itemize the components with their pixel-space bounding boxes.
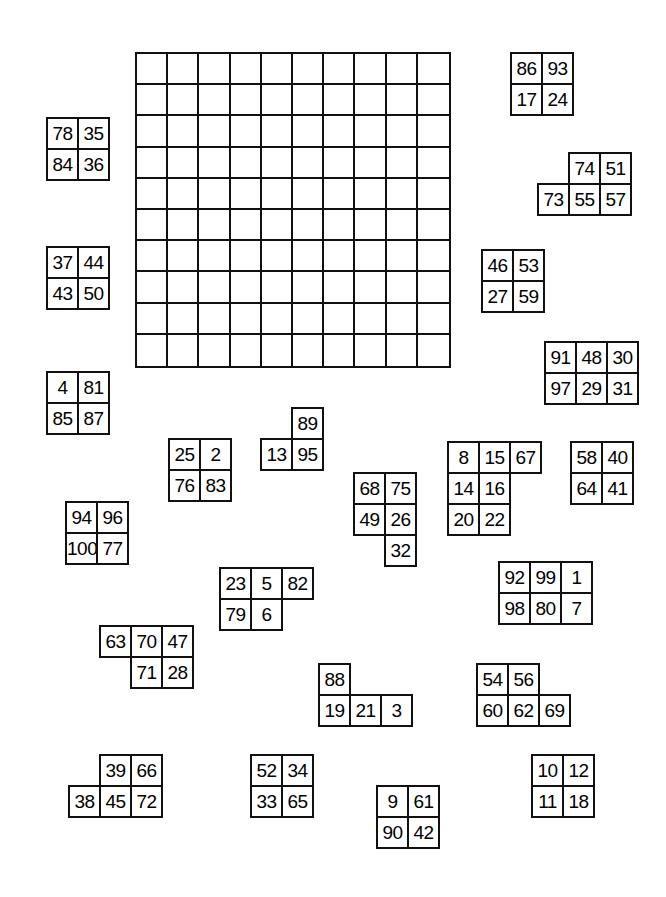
board-cell[interactable] (168, 85, 199, 116)
board-cell[interactable] (199, 179, 230, 210)
piece-cell[interactable]: 34 (281, 754, 314, 787)
piece-cell[interactable]: 30 (606, 341, 639, 374)
piece-cell[interactable]: 100 (65, 532, 98, 565)
board-cell[interactable] (168, 272, 199, 303)
piece-cell[interactable]: 45 (99, 785, 132, 818)
board-cell[interactable] (168, 54, 199, 85)
board-cell[interactable] (293, 335, 324, 366)
puzzle-piece[interactable]: 37444350 (46, 246, 108, 308)
puzzle-piece[interactable]: 8819213 (318, 663, 411, 725)
piece-cell[interactable]: 51 (599, 152, 632, 185)
board-cell[interactable] (231, 210, 262, 241)
board-cell[interactable] (262, 241, 293, 272)
board-cell[interactable] (387, 179, 418, 210)
board-cell[interactable] (199, 272, 230, 303)
piece-cell[interactable]: 49 (353, 503, 386, 536)
board-cell[interactable] (355, 210, 386, 241)
board-cell[interactable] (293, 241, 324, 272)
piece-cell[interactable]: 56 (507, 663, 540, 696)
puzzle-piece[interactable]: 914830972931 (544, 341, 637, 403)
piece-cell[interactable]: 24 (541, 83, 574, 116)
board-cell[interactable] (137, 210, 168, 241)
board-cell[interactable] (355, 272, 386, 303)
board-cell[interactable] (137, 54, 168, 85)
piece-cell[interactable]: 41 (601, 472, 634, 505)
board-cell[interactable] (418, 116, 449, 147)
piece-cell[interactable]: 18 (562, 785, 595, 818)
board-cell[interactable] (262, 304, 293, 335)
piece-cell[interactable]: 35 (77, 117, 110, 150)
board-cell[interactable] (137, 179, 168, 210)
piece-cell[interactable]: 69 (538, 694, 571, 727)
board-cell[interactable] (387, 241, 418, 272)
board-cell[interactable] (293, 148, 324, 179)
piece-cell[interactable]: 97 (544, 372, 577, 405)
piece-cell[interactable]: 40 (601, 441, 634, 474)
board-cell[interactable] (199, 210, 230, 241)
piece-cell[interactable]: 21 (349, 694, 382, 727)
board-cell[interactable] (262, 116, 293, 147)
puzzle-piece[interactable]: 10121118 (531, 754, 593, 816)
piece-cell[interactable]: 27 (481, 280, 514, 313)
piece-cell[interactable]: 12 (562, 754, 595, 787)
board-cell[interactable] (231, 85, 262, 116)
piece-cell[interactable]: 74 (568, 152, 601, 185)
board-cell[interactable] (324, 210, 355, 241)
piece-cell[interactable]: 15 (478, 441, 511, 474)
puzzle-piece[interactable]: 9299198807 (498, 561, 591, 623)
puzzle-piece[interactable]: 9619042 (376, 785, 438, 847)
board-cell[interactable] (168, 210, 199, 241)
board-cell[interactable] (137, 148, 168, 179)
board-cell[interactable] (231, 241, 262, 272)
puzzle-piece[interactable]: 4818587 (46, 371, 108, 433)
piece-cell[interactable]: 77 (96, 532, 129, 565)
piece-cell[interactable]: 48 (575, 341, 608, 374)
board-cell[interactable] (418, 241, 449, 272)
puzzle-piece[interactable]: 2527683 (168, 438, 230, 500)
board-cell[interactable] (262, 210, 293, 241)
board-cell[interactable] (293, 304, 324, 335)
board-cell[interactable] (231, 54, 262, 85)
piece-cell[interactable]: 25 (168, 438, 201, 471)
board-cell[interactable] (324, 179, 355, 210)
piece-cell[interactable]: 10 (531, 754, 564, 787)
board-cell[interactable] (387, 54, 418, 85)
piece-cell[interactable]: 42 (407, 816, 440, 849)
board-cell[interactable] (137, 335, 168, 366)
piece-cell[interactable]: 9 (376, 785, 409, 818)
piece-cell[interactable]: 90 (376, 816, 409, 849)
board-cell[interactable] (199, 335, 230, 366)
board-cell[interactable] (262, 148, 293, 179)
piece-cell[interactable]: 32 (384, 534, 417, 567)
board-cell[interactable] (137, 116, 168, 147)
board-cell[interactable] (231, 148, 262, 179)
puzzle-piece[interactable]: 949610077 (65, 501, 127, 563)
piece-cell[interactable]: 67 (509, 441, 542, 474)
board-cell[interactable] (137, 304, 168, 335)
board-cell[interactable] (231, 116, 262, 147)
piece-cell[interactable]: 93 (541, 52, 574, 85)
puzzle-piece[interactable]: 7451735557 (537, 152, 630, 214)
board-cell[interactable] (387, 335, 418, 366)
board-cell[interactable] (418, 210, 449, 241)
piece-cell[interactable]: 73 (537, 183, 570, 216)
puzzle-piece[interactable]: 46532759 (481, 249, 543, 311)
piece-cell[interactable]: 54 (476, 663, 509, 696)
piece-cell[interactable]: 70 (130, 625, 163, 658)
board-cell[interactable] (387, 85, 418, 116)
piece-cell[interactable]: 94 (65, 501, 98, 534)
board-cell[interactable] (231, 304, 262, 335)
piece-cell[interactable]: 64 (570, 472, 603, 505)
board-cell[interactable] (418, 85, 449, 116)
piece-cell[interactable]: 28 (161, 656, 194, 689)
board-cell[interactable] (168, 116, 199, 147)
piece-cell[interactable]: 55 (568, 183, 601, 216)
piece-cell[interactable]: 44 (77, 246, 110, 279)
piece-cell[interactable]: 16 (478, 472, 511, 505)
board-cell[interactable] (231, 179, 262, 210)
piece-cell[interactable]: 37 (46, 246, 79, 279)
board-cell[interactable] (137, 272, 168, 303)
piece-cell[interactable]: 11 (531, 785, 564, 818)
piece-cell[interactable]: 89 (291, 407, 324, 440)
piece-cell[interactable]: 65 (281, 785, 314, 818)
